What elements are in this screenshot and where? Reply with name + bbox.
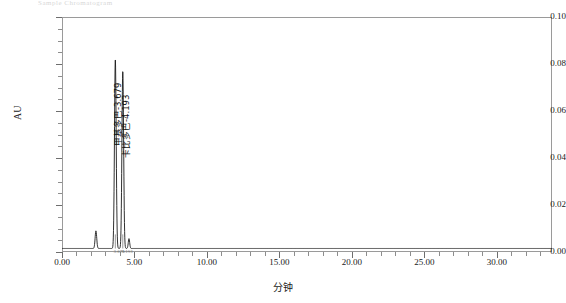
- y-axis-title: AU: [12, 106, 23, 120]
- x-axis-minor-tick: [178, 252, 179, 256]
- x-axis-minor-tick: [91, 252, 92, 256]
- retention-time-annotation: 4.193: [121, 250, 132, 254]
- x-axis-tick-label: 5.00: [111, 257, 157, 267]
- x-axis-minor-tick: [410, 252, 411, 256]
- x-axis-tick-label: 10.00: [184, 257, 230, 267]
- x-axis-minor-tick: [439, 252, 440, 256]
- x-axis-tick-mark: [62, 252, 63, 258]
- x-axis-minor-tick: [482, 252, 483, 256]
- signal-trace-path: [62, 60, 552, 248]
- x-axis-minor-tick: [192, 252, 193, 256]
- x-axis-minor-tick: [236, 252, 237, 256]
- x-axis-minor-tick: [526, 252, 527, 256]
- x-axis-minor-tick: [163, 252, 164, 256]
- x-axis-minor-tick: [105, 252, 106, 256]
- chromatogram-trace-area: [62, 17, 552, 252]
- header-smudge-text: Sample Chromatogram: [38, 0, 148, 7]
- x-axis-minor-tick: [366, 252, 367, 256]
- peak-label: 卡比多巴-4.193: [119, 94, 131, 157]
- x-axis-minor-tick: [76, 252, 77, 256]
- x-axis-tick-label: 25.00: [401, 257, 447, 267]
- x-axis-tick-label: 15.00: [256, 257, 302, 267]
- x-axis-tick-mark: [352, 252, 353, 258]
- x-axis-minor-tick: [337, 252, 338, 256]
- x-axis-tick-mark: [279, 252, 280, 258]
- x-axis-minor-tick: [381, 252, 382, 256]
- x-axis-tick-mark: [207, 252, 208, 258]
- chromatogram-trace: [62, 17, 552, 252]
- chromatogram-page: Sample Chromatogram 0.000.020.040.060.08…: [0, 0, 566, 303]
- x-axis-minor-tick: [511, 252, 512, 256]
- x-axis-minor-tick: [468, 252, 469, 256]
- x-axis-tick-mark: [134, 252, 135, 258]
- x-axis-tick-label: 30.00: [474, 257, 520, 267]
- x-axis-minor-tick: [265, 252, 266, 256]
- x-axis-minor-tick: [453, 252, 454, 256]
- x-axis-minor-tick: [540, 252, 541, 256]
- x-axis-minor-tick: [395, 252, 396, 256]
- x-axis-minor-tick: [149, 252, 150, 256]
- x-axis-minor-tick: [323, 252, 324, 256]
- x-axis-minor-tick: [294, 252, 295, 256]
- x-axis-tick-mark: [497, 252, 498, 258]
- x-axis-tick-mark: [424, 252, 425, 258]
- x-axis-minor-tick: [250, 252, 251, 256]
- x-axis-tick-label: 0.00: [39, 257, 85, 267]
- x-axis-minor-tick: [308, 252, 309, 256]
- x-axis-tick-label: 20.00: [329, 257, 375, 267]
- x-axis-title: 分钟: [0, 279, 566, 294]
- x-axis-minor-tick: [221, 252, 222, 256]
